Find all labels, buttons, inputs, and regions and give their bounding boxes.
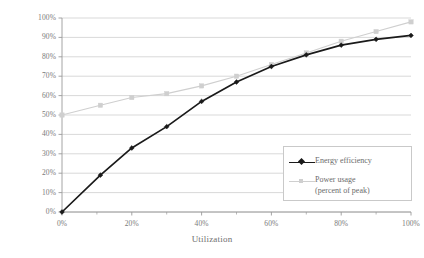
chart-container: 0%10%20%30%40%50%60%70%80%90%100% 0%20%4… [0, 0, 424, 258]
chart-legend: Energy efficiencyPower usage (percent of… [283, 146, 412, 201]
legend-item[interactable]: Power usage (percent of peak) [289, 175, 411, 196]
series-power-usage [60, 20, 413, 118]
legend-marker-diamond-icon [289, 157, 315, 167]
y-axis-tick-label: 100% [14, 13, 56, 22]
y-axis-tick-label: 30% [14, 149, 56, 158]
x-axis-tick-label: 20% [112, 219, 152, 228]
legend-item-label: Energy efficiency [315, 156, 372, 167]
x-axis-tick-label: 0% [42, 219, 82, 228]
legend-item-label: Power usage (percent of peak) [315, 175, 370, 196]
legend-marker-square-icon [289, 176, 315, 186]
x-axis-ticks [62, 212, 411, 216]
y-axis-tick-label: 20% [14, 168, 56, 177]
y-axis-tick-label: 70% [14, 71, 56, 80]
y-axis-tick-label: 0% [14, 207, 56, 216]
y-axis-tick-label: 40% [14, 129, 56, 138]
x-axis-tick-label: 80% [321, 219, 361, 228]
y-axis-tick-label: 90% [14, 32, 56, 41]
y-axis-tick-label: 60% [14, 91, 56, 100]
x-axis-tick-label: 100% [391, 219, 424, 228]
x-axis-tick-label: 60% [251, 219, 291, 228]
y-axis-tick-label: 10% [14, 188, 56, 197]
y-axis-tick-label: 50% [14, 110, 56, 119]
legend-item[interactable]: Energy efficiency [289, 156, 411, 167]
y-axis-tick-label: 80% [14, 52, 56, 61]
x-axis-title: Utilization [0, 234, 424, 244]
x-axis-tick-label: 40% [182, 219, 222, 228]
